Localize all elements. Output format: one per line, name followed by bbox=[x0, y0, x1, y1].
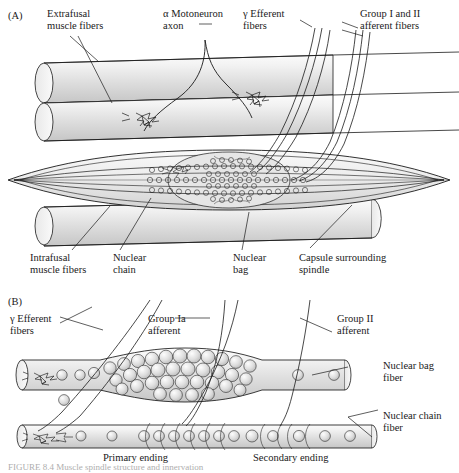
label-intrafusal-muscle-fibers: Intrafusal muscle fibers bbox=[30, 252, 86, 275]
label-alpha-motoneuron-axon: α Motoneuron axon bbox=[163, 8, 223, 31]
label-nuclear-chain-fiber: Nuclear chain fiber bbox=[383, 410, 442, 433]
muscle-spindle-figure: (A) Extrafusal muscle fibers α Motoneuro… bbox=[0, 0, 459, 473]
extrafusal-fiber-middle bbox=[35, 95, 459, 141]
figure-caption: FIGURE 8.4 Muscle spindle structure and … bbox=[8, 462, 308, 473]
label-group-ii-afferent: Group II afferent bbox=[337, 313, 373, 336]
nuclear-chain-fiber bbox=[17, 423, 377, 450]
label-nuclear-bag-fiber: Nuclear bag fiber bbox=[383, 360, 434, 383]
label-extrafusal-muscle-fibers: Extrafusal muscle fibers bbox=[47, 8, 103, 31]
muscle-spindle bbox=[8, 150, 450, 210]
label-capsule-surrounding-spindle: Capsule surrounding spindle bbox=[299, 252, 386, 275]
label-gamma-efferent-fibers-a: γ Efferent fibers bbox=[243, 8, 284, 31]
label-group-i-and-ii-afferent-fibers: Group I and II afferent fibers bbox=[360, 8, 420, 31]
panel-a-tag: (A) bbox=[8, 10, 23, 21]
extrafusal-fiber-top bbox=[35, 52, 459, 103]
label-group-ia-afferent: Group Ia afferent bbox=[148, 313, 186, 336]
label-gamma-efferent-fibers-b: γ Efferent fibers bbox=[10, 313, 51, 336]
panel-b-tag: (B) bbox=[8, 296, 22, 307]
label-nuclear-bag: Nuclear bag bbox=[233, 252, 266, 275]
label-nuclear-chain: Nuclear chain bbox=[113, 252, 146, 275]
figure-artwork bbox=[0, 0, 459, 473]
